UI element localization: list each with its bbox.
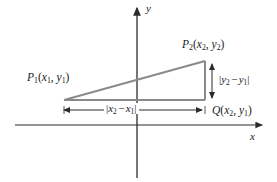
- p2-index: 2: [189, 43, 193, 52]
- p2-coord-x-index: 2: [202, 43, 206, 52]
- p1-coord-x-index: 1: [47, 76, 51, 85]
- q-coord-x-index: 2: [229, 109, 233, 118]
- p2-letter: P: [182, 38, 189, 50]
- p2-coord-y: y: [212, 38, 217, 50]
- p2-coord-y-index: 2: [217, 43, 221, 52]
- p1-index: 1: [34, 76, 38, 85]
- figure-canvas: [0, 0, 277, 182]
- point-p1-label: P1(x1, y1): [27, 72, 69, 84]
- dy-var-a-index: 2: [226, 78, 230, 87]
- distance-formula-figure: P1(x1, y1) P2(x2, y2) Q(x2, y1) |x2−x1| …: [0, 0, 277, 182]
- dy-var-b: y: [239, 73, 244, 85]
- point-p2-label: P2(x2, y2): [182, 39, 224, 51]
- dx-var-b: x: [126, 102, 131, 114]
- vertical-distance-label: |y2−y1|: [219, 74, 250, 85]
- horizontal-distance-label: |x2−x1|: [104, 103, 139, 114]
- dy-var-b-index: 1: [244, 78, 248, 87]
- p1-coord-y-index: 1: [62, 76, 66, 85]
- dx-var-a-index: 2: [113, 107, 117, 116]
- triangle-hypotenuse: [64, 61, 205, 100]
- p1-coord-y: y: [57, 71, 62, 83]
- axes-group: [15, 8, 262, 178]
- point-q-label: Q(x2, y1): [212, 105, 252, 117]
- right-triangle: [64, 61, 205, 100]
- dx-var-b-index: 1: [131, 107, 135, 116]
- x-axis-label: x: [250, 131, 255, 142]
- q-coord-y-index: 1: [244, 109, 248, 118]
- p1-letter: P: [27, 71, 34, 83]
- y-axis-label: y: [146, 3, 151, 14]
